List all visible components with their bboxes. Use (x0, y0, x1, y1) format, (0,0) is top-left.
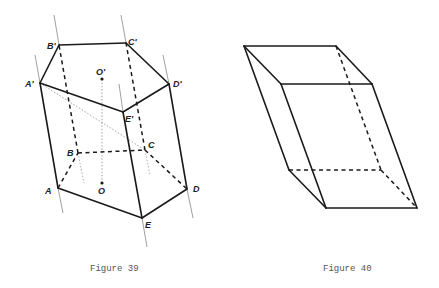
figure-40-parallelepiped (244, 46, 417, 208)
visible-edge (40, 83, 58, 188)
diagram-canvas: ABCDEOA'B'C'D'E'O' Figure 39 Figure 40 (0, 0, 439, 288)
vertex-label: E (145, 220, 152, 230)
hidden-extension-line (78, 153, 84, 183)
visible-edge (40, 83, 123, 112)
hidden-edge (59, 45, 78, 153)
vertex-label: A' (24, 79, 34, 89)
center-point-o (100, 181, 103, 184)
vertex-label: C' (128, 37, 137, 47)
vertex-label: O (98, 186, 105, 196)
hidden-extension-line (145, 150, 150, 175)
edge-extension-line (58, 188, 63, 213)
vertex-label: E' (125, 114, 134, 124)
hidden-edge (336, 46, 381, 170)
edge-extension-line (119, 84, 123, 112)
vertex-label: D (193, 184, 200, 194)
visible-edge (126, 43, 169, 84)
edge-extension-line (35, 55, 40, 83)
visible-edge (123, 112, 142, 218)
vertex-label: O' (96, 67, 106, 77)
vertex-label: D' (173, 79, 182, 89)
hidden-edge (58, 153, 78, 188)
visible-edge (169, 84, 187, 189)
visible-edge (142, 189, 187, 218)
figure-39-pentagonal-prism: ABCDEOA'B'C'D'E'O' (24, 15, 200, 247)
hidden-edge (78, 150, 145, 153)
edge-extension-line (121, 15, 126, 43)
visible-edge (244, 46, 281, 84)
vertex-label: B (67, 148, 74, 158)
visible-edge (244, 46, 289, 170)
visible-edge (289, 170, 326, 208)
visible-edge (123, 84, 169, 112)
vertex-label: A (44, 186, 52, 196)
center-point-o-prime (100, 77, 103, 80)
visible-edge (281, 84, 326, 208)
vertex-label: B' (47, 41, 56, 51)
hidden-edge (381, 170, 417, 208)
figure-40-caption: Figure 40 (323, 264, 372, 274)
vertex-label: C (148, 140, 155, 150)
visible-edge (336, 46, 372, 84)
visible-edge (59, 43, 126, 45)
figure-39-caption: Figure 39 (90, 264, 139, 274)
visible-edge (372, 84, 417, 208)
